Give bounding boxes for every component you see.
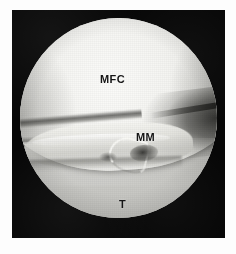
meniscal-tear-notch <box>99 152 117 162</box>
annotation-label-mfc: MFC <box>100 74 125 85</box>
photograph-plate: MFC MM T <box>12 10 225 238</box>
figure-root: MFC MM T <box>0 0 236 254</box>
annotation-label-t: T <box>119 199 126 210</box>
arthroscope-field-of-view <box>20 18 217 218</box>
annotation-label-mm: MM <box>136 132 155 143</box>
